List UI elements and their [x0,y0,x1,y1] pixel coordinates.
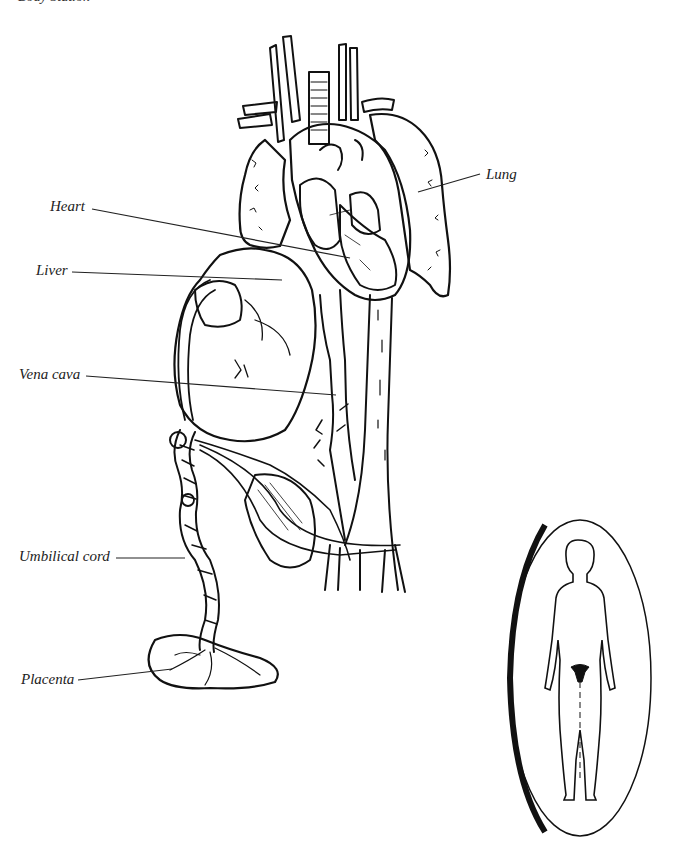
label-liver: Liver [36,262,68,279]
label-umbilical-cord: Umbilical cord [19,548,110,565]
lung-leader-line [418,174,480,192]
placenta-shape [149,635,278,688]
liver-leader-line [72,272,282,280]
uterus-icon [571,665,589,683]
bladder-shape [245,474,315,567]
fetal-circulation-diagram [0,0,683,843]
label-vena-cava: Vena cava [19,366,80,383]
vena-cava-shape [320,290,355,540]
label-lung: Lung [486,166,517,183]
body-inset [509,520,651,836]
vena-cava-leader-line [86,376,336,395]
umbilical-cord-shape [174,430,219,652]
umbilical-arteries [195,440,400,560]
neck-vessels [238,36,394,144]
heart-shape [290,124,410,300]
right-lung-shape [370,114,450,296]
leader-lines [72,174,480,680]
heart-leader-line [92,209,350,258]
label-heart: Heart [50,198,85,215]
left-lung-shape [240,140,290,248]
label-placenta: Placenta [21,671,74,688]
